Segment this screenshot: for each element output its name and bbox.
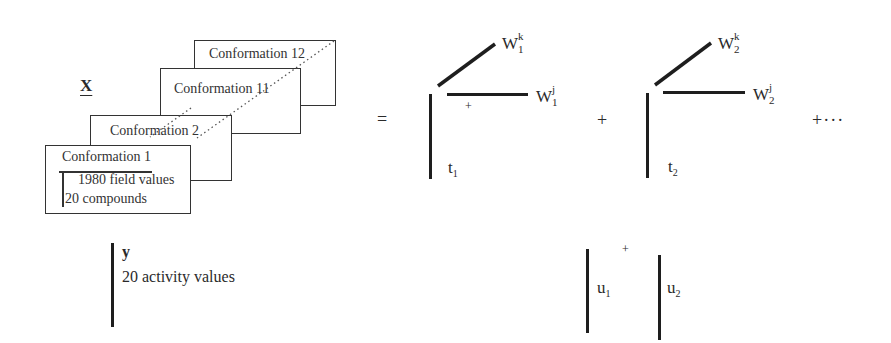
- conformation-box-1: Conformation 1 1980 field values 20 comp…: [45, 145, 191, 214]
- y-vector-bar: [111, 243, 114, 327]
- w2k-symbol: W: [718, 34, 734, 53]
- u1-symbol: u: [597, 278, 606, 297]
- w1j-label: Wj1: [536, 87, 560, 107]
- w1k-sup: k: [518, 30, 524, 42]
- field-values-label: 1980 field values: [78, 172, 174, 188]
- plus-ellipsis: +···: [812, 110, 844, 131]
- matrix-x-label: X: [80, 76, 92, 96]
- w1j-sup: j: [552, 83, 555, 95]
- conformation-1-label: Conformation 1: [62, 149, 151, 165]
- u1-sub: 1: [606, 288, 611, 299]
- w1j-sub: 1: [552, 96, 558, 108]
- t2-label: t2: [668, 157, 678, 177]
- w1j-symbol: W: [536, 87, 552, 106]
- w2k-sub: 2: [734, 43, 740, 55]
- equals-sign: =: [377, 109, 387, 130]
- t2-vector-bar: [646, 93, 649, 178]
- conformation-12-label: Conformation 12: [209, 46, 305, 62]
- w1j-vector-bar: [447, 93, 528, 96]
- w2j-sub: 2: [769, 94, 775, 106]
- y-description: 20 activity values: [122, 268, 235, 286]
- conformation-2-label: Conformation 2: [110, 123, 199, 139]
- plus-sign: +: [597, 110, 607, 131]
- inner-plus-sign: +: [465, 99, 472, 114]
- t1-sub: 1: [453, 168, 458, 179]
- w2k-sup: k: [734, 30, 740, 42]
- w2j-label: Wj2: [753, 85, 777, 105]
- w2k-label: Wk2: [718, 34, 742, 54]
- w1k-label: Wk1: [502, 34, 526, 54]
- conformation-11-label: Conformation 11: [174, 81, 270, 97]
- u2-sub: 2: [676, 288, 681, 299]
- u2-label: u2: [667, 278, 681, 298]
- u2-symbol: u: [667, 278, 676, 297]
- t1-label: t1: [448, 158, 458, 178]
- compound-axis-line: [62, 171, 64, 207]
- u1-label: u1: [597, 278, 611, 298]
- w2j-vector-bar: [663, 91, 745, 94]
- y-label: y: [122, 243, 130, 261]
- u1-vector-bar: [586, 249, 589, 333]
- u2-vector-bar: [658, 255, 661, 340]
- compounds-label: 20 compounds: [65, 191, 147, 207]
- w1k-sub: 1: [518, 43, 524, 55]
- w1k-symbol: W: [502, 34, 518, 53]
- u-plus-sign: +: [622, 242, 629, 257]
- t1-vector-bar: [429, 94, 432, 179]
- w2j-sup: j: [769, 81, 772, 93]
- t2-sub: 2: [673, 167, 678, 178]
- w2j-symbol: W: [753, 85, 769, 104]
